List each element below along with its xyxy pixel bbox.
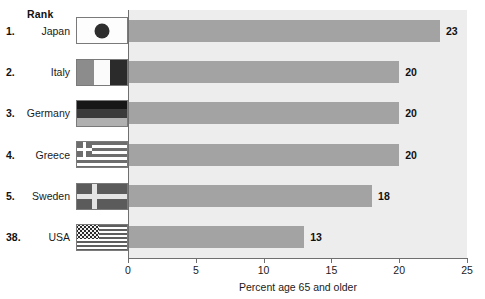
x-axis-tick-label: 20 bbox=[393, 264, 405, 276]
usa-flag-icon bbox=[76, 224, 128, 251]
bar-value-label: 13 bbox=[310, 231, 322, 243]
country-name: Germany bbox=[27, 107, 76, 119]
rank-value: 1. bbox=[0, 25, 30, 37]
x-axis-tick bbox=[331, 258, 332, 263]
bar-value-label: 20 bbox=[405, 66, 417, 78]
bar-value-label: 23 bbox=[446, 25, 458, 37]
x-axis-tick-label: 25 bbox=[461, 264, 473, 276]
country-row: 4.Greece bbox=[0, 138, 128, 172]
japan-sun-disc bbox=[95, 23, 110, 38]
rank-value: 2. bbox=[0, 66, 30, 78]
x-axis-tick-label: 15 bbox=[326, 264, 338, 276]
japan-flag-icon bbox=[76, 17, 128, 44]
x-axis-tick-label: 5 bbox=[193, 264, 199, 276]
italy-flag-icon bbox=[76, 59, 128, 86]
x-axis-tick bbox=[128, 258, 129, 263]
bar bbox=[128, 61, 399, 83]
country-row: 2.Italy bbox=[0, 55, 128, 89]
bar bbox=[128, 226, 304, 248]
y-axis-line bbox=[128, 10, 129, 259]
x-axis-tick bbox=[399, 258, 400, 263]
bar bbox=[128, 185, 372, 207]
rank-value: 5. bbox=[0, 190, 30, 202]
sweden-flag-icon bbox=[76, 183, 128, 210]
country-name: USA bbox=[30, 231, 76, 243]
x-axis-line bbox=[128, 258, 468, 259]
country-name: Italy bbox=[30, 66, 76, 78]
country-name: Japan bbox=[30, 25, 76, 37]
country-name: Greece bbox=[30, 149, 76, 161]
rank-value: 3. bbox=[0, 107, 27, 119]
bar-value-label: 20 bbox=[405, 107, 417, 119]
x-axis-tick bbox=[196, 258, 197, 263]
bar bbox=[128, 102, 399, 124]
country-row: 5.Sweden bbox=[0, 179, 128, 213]
flag-canton bbox=[77, 142, 92, 157]
bar bbox=[128, 144, 399, 166]
country-name: Sweden bbox=[30, 190, 76, 202]
x-axis-tick bbox=[264, 258, 265, 263]
bar bbox=[128, 20, 440, 42]
country-row: 38.USA bbox=[0, 220, 128, 254]
rank-value: 38. bbox=[0, 231, 30, 243]
rank-value: 4. bbox=[0, 149, 30, 161]
chart-plot-area: 232020201813 bbox=[128, 10, 467, 258]
x-axis-tick-label: 0 bbox=[125, 264, 131, 276]
country-row: 3.Germany bbox=[0, 96, 128, 130]
germany-flag-icon bbox=[76, 100, 128, 127]
bar-value-label: 20 bbox=[405, 149, 417, 161]
greece-flag-icon bbox=[76, 141, 128, 168]
x-axis-title: Percent age 65 and older bbox=[128, 281, 468, 293]
flag-canton bbox=[77, 225, 99, 239]
country-row: 1.Japan bbox=[0, 14, 128, 48]
x-axis-tick-label: 10 bbox=[258, 264, 270, 276]
bar-value-label: 18 bbox=[378, 190, 390, 202]
x-axis-tick bbox=[467, 258, 468, 263]
